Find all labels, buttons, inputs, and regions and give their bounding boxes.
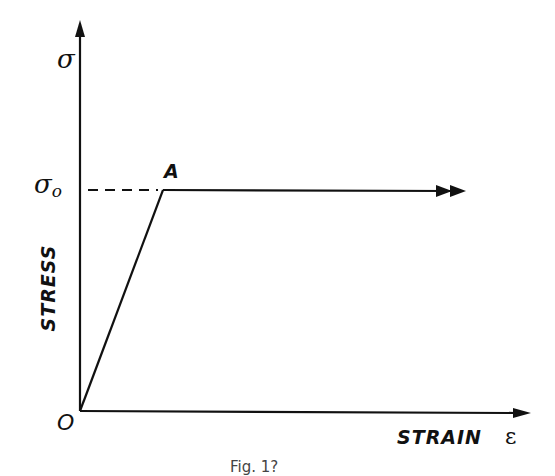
yield-stress-label: σo [34, 169, 62, 201]
stress-symbol: σ [57, 44, 75, 74]
plastic-line-arrow-icon-1 [436, 185, 452, 197]
stress-axis-arrow-icon [75, 20, 85, 37]
elastic-line [80, 190, 163, 411]
origin-label: O [57, 410, 74, 435]
strain-symbol: ε [505, 424, 516, 449]
point-a-label: A [164, 160, 179, 182]
strain-axis-arrow-icon [513, 408, 531, 418]
yield-stress-subscript: o [52, 181, 62, 201]
figure-caption: Fig. 1? [230, 458, 278, 476]
plastic-line-arrow-icon-2 [450, 185, 466, 197]
strain-axis-label: STRAIN [397, 426, 482, 448]
stress-axis-label: STRESS [37, 238, 59, 338]
plastic-line [163, 190, 450, 191]
yield-stress-symbol: σ [34, 169, 52, 199]
strain-axis [80, 411, 515, 413]
